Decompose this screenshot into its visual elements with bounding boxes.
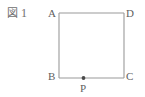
square-diagram-canvas: [0, 0, 145, 97]
vertex-label-b: B: [48, 71, 55, 82]
point-label-p: P: [80, 83, 86, 94]
figure-diagram-panel: 図 1 A D B C P: [0, 0, 145, 97]
point-P-marker: [82, 76, 86, 80]
vertex-label-d: D: [126, 8, 134, 19]
square-outline: [59, 13, 124, 78]
vertex-label-a: A: [48, 8, 56, 19]
vertex-label-c: C: [126, 71, 133, 82]
